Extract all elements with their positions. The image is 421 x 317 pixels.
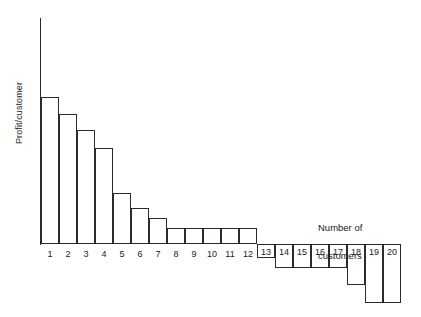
category-label-12: 12 [239,249,257,259]
category-label-9: 9 [185,249,203,259]
category-label-6: 6 [131,249,149,259]
category-label-7: 7 [149,249,167,259]
y-axis-label: Profit/customer [14,58,24,168]
category-label-8: 8 [167,249,185,259]
category-label-11: 11 [221,249,239,259]
bar-customer-1 [41,97,59,244]
category-label-1: 1 [41,249,59,259]
bar-customer-8 [167,228,185,244]
bar-customer-9 [185,228,203,244]
x-axis-label-line1: Number of [318,221,362,235]
bar-customer-11 [221,228,239,244]
category-label-14: 14 [275,247,293,257]
category-label-4: 4 [95,249,113,259]
x-axis-label: Number of customers [318,207,362,277]
category-label-19: 19 [365,247,383,257]
bar-customer-10 [203,228,221,244]
x-axis-label-line2: customers [318,249,362,263]
bar-customer-7 [149,218,167,244]
bar-customer-6 [131,208,149,244]
bar-customer-5 [113,193,131,244]
category-label-15: 15 [293,247,311,257]
category-label-3: 3 [77,249,95,259]
bar-customer-12 [239,228,257,244]
category-label-13: 13 [257,247,275,257]
bar-customer-4 [95,148,113,244]
bar-customer-2 [59,114,77,244]
bar-customer-3 [77,130,95,244]
category-label-5: 5 [113,249,131,259]
category-label-2: 2 [59,249,77,259]
category-label-20: 20 [383,247,401,257]
profit-per-customer-chart: Profit/customer 123456789101112131415161… [0,0,421,317]
category-label-10: 10 [203,249,221,259]
